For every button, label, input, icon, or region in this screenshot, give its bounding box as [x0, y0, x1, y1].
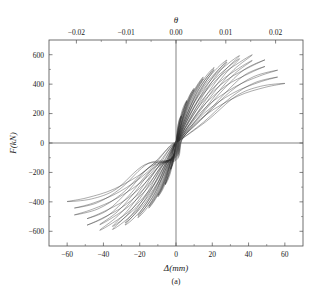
x-tick-label: 60: [281, 250, 289, 259]
x-tick-label: −20: [134, 250, 146, 259]
x-tick-label: 0: [174, 250, 178, 259]
x-axis-title: Δ(mm): [163, 263, 188, 273]
hysteresis-figure: −60−40−2002040606004002000−200−400−600−0…: [0, 0, 322, 296]
x-tick-label: 20: [209, 250, 217, 259]
top-tick-label: 0.02: [269, 28, 282, 37]
top-tick-label: 0.01: [219, 28, 232, 37]
y-tick-label: 400: [33, 80, 45, 89]
y-tick-label: 600: [33, 51, 45, 60]
chart-labels: −60−40−2002040606004002000−200−400−600−0…: [8, 15, 289, 286]
y-tick-label: 0: [40, 139, 44, 148]
top-tick-label: 0.00: [169, 28, 182, 37]
chart-axes: [49, 40, 303, 246]
x-tick-label: −60: [61, 250, 73, 259]
top-axis-title: θ: [174, 15, 179, 25]
y-tick-label: 200: [33, 109, 45, 118]
y-axis-title: F(kN): [8, 132, 18, 155]
y-tick-label: −600: [29, 227, 45, 236]
x-tick-label: −40: [98, 250, 110, 259]
hysteresis-chart-svg: −60−40−2002040606004002000−200−400−600−0…: [0, 0, 322, 296]
figure-caption: (a): [172, 277, 181, 286]
top-tick-label: −0.02: [68, 28, 86, 37]
y-tick-label: −400: [29, 198, 45, 207]
y-tick-label: −200: [29, 168, 45, 177]
top-tick-label: −0.01: [118, 28, 136, 37]
x-tick-label: 40: [245, 250, 253, 259]
